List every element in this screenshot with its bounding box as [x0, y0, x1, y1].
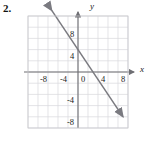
x-tick-label-8: 8 [121, 74, 125, 84]
plotted-line [52, 10, 123, 116]
axes [24, 12, 134, 128]
problem-number: 2. [3, 2, 11, 14]
y-axis-label: y [90, 1, 94, 11]
graph-canvas [22, 10, 156, 134]
plot-area: y x -8 -4 0 4 8 8 4 -4 -8 [28, 16, 128, 128]
x-tick-label-neg8: -8 [40, 74, 47, 84]
linear-graph-figure: y x -8 -4 0 4 8 8 4 -4 -8 [28, 16, 128, 128]
y-tick-label-4: 4 [70, 51, 74, 61]
y-tick-label-neg8: -8 [67, 117, 74, 127]
x-tick-label-neg4: -4 [60, 74, 67, 84]
x-tick-label-0: 0 [81, 74, 85, 84]
x-axis-label: x [140, 64, 144, 74]
x-tick-label-4: 4 [101, 74, 105, 84]
y-tick-label-8: 8 [70, 29, 74, 39]
y-tick-label-neg4: -4 [67, 95, 74, 105]
